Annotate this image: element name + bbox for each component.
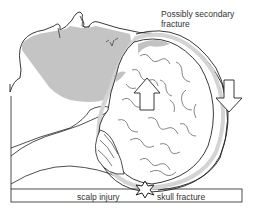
secondary-fracture-line1: Possibly secondary xyxy=(161,9,234,19)
nose-mark xyxy=(80,16,90,27)
secondary-fracture-label: Possibly secondary fracture xyxy=(161,9,234,29)
scalp-injury-label: scalp injury xyxy=(77,192,120,202)
ground-surface xyxy=(11,189,242,202)
head-injury-diagram xyxy=(0,0,253,210)
secondary-fracture-line2: fracture xyxy=(161,19,234,29)
skull-fracture-label: skull fracture xyxy=(157,192,205,202)
